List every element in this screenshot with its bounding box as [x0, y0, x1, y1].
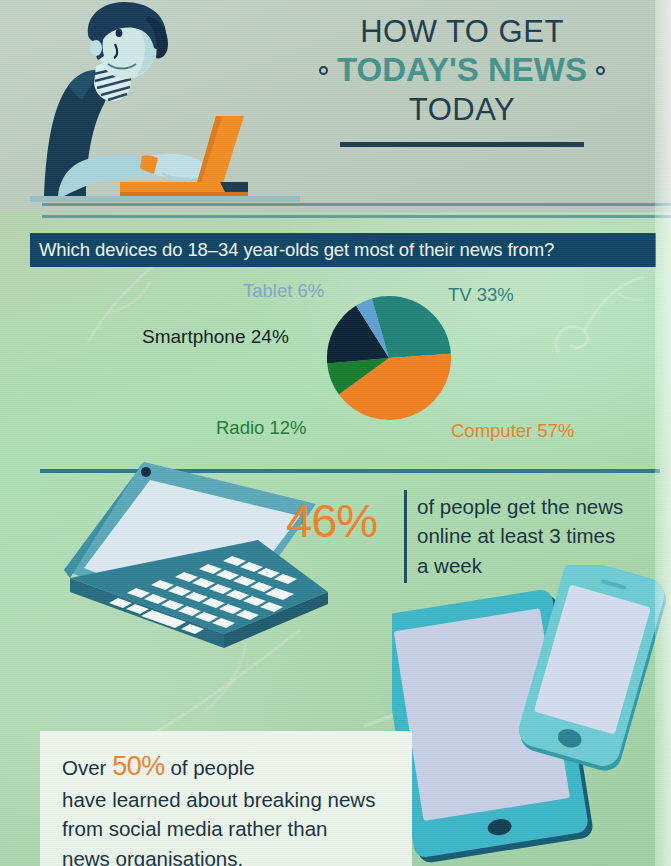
tablet-and-phone-illustration: [392, 565, 671, 866]
title-underline-rule: [340, 142, 584, 147]
title-line-3: TODAY: [272, 90, 652, 130]
title-line-2-text: TODAY'S NEWS: [337, 51, 587, 90]
pie-chart: [325, 294, 453, 422]
stat-46-percent: 46%: [286, 497, 377, 544]
stat-46-line-1: of people get the news: [417, 492, 667, 521]
header-divider-rule-top: [42, 203, 671, 206]
social-stat-line-3: from social media rather than: [62, 814, 412, 843]
pie-label-smartphone: Smartphone 24%: [142, 326, 289, 348]
social-stat-line-4: news organisations.: [62, 844, 412, 866]
laptop-illustration: [18, 452, 358, 697]
pie-chart-section: Tablet 6% TV 33% Smartphone 24% Radio 12…: [0, 272, 671, 467]
ring-circle-icon-right: [596, 66, 605, 75]
infographic-page: HOW TO GET TODAY'S NEWS TODAY Which devi…: [0, 0, 671, 866]
social-stat-percent: 50%: [112, 751, 165, 781]
social-media-stat-panel: Over 50% of people have learned about br…: [40, 731, 412, 866]
pie-label-computer: Computer 57%: [451, 420, 574, 442]
stat-46-line-2: online at least 3 times: [417, 521, 667, 550]
person-typing-illustration: [30, 0, 300, 212]
header-divider-rule-bottom: [42, 215, 671, 218]
social-stat-line-2: have learned about breaking news: [62, 785, 412, 814]
question-banner: Which devices do 18–34 year-olds get mos…: [30, 233, 656, 267]
social-stat-prefix: Over: [62, 756, 106, 779]
pie-slice-tv: [389, 296, 451, 358]
social-stat-line-1: Over 50% of people: [62, 747, 412, 785]
question-text: Which devices do 18–34 year-olds get mos…: [39, 239, 554, 261]
title-line-2: TODAY'S NEWS: [272, 51, 652, 90]
pie-label-radio: Radio 12%: [216, 417, 307, 439]
social-stat-suffix: of people: [170, 756, 254, 779]
pie-label-tv: TV 33%: [448, 284, 514, 306]
pie-label-tablet: Tablet 6%: [243, 280, 324, 302]
title-line-1: HOW TO GET: [272, 14, 652, 51]
ring-circle-icon-left: [319, 66, 328, 75]
page-title: HOW TO GET TODAY'S NEWS TODAY: [272, 14, 652, 147]
